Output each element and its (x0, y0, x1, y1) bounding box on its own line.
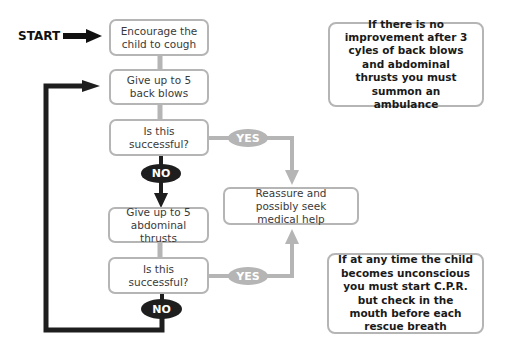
decision-check-1: Is this successful? (109, 119, 209, 156)
loop-arrow-icon (82, 80, 100, 92)
step-reassure: Reassure and possibly seek medical help (223, 187, 359, 225)
step-text: Give up to 5 abdominal thrusts (110, 206, 207, 245)
note-text: If at any time the child becomes unconsc… (329, 253, 482, 333)
yes-arrow-up-icon (285, 229, 299, 244)
step-text: Give up to 5 back blows (111, 74, 207, 100)
step-back-blows: Give up to 5 back blows (109, 69, 209, 105)
step-text: Encourage the child to cough (111, 25, 207, 51)
note-text: If there is no improvement after 3 cyles… (330, 18, 482, 112)
decision-check-2: Is this successful? (108, 257, 209, 294)
step-encourage-cough: Encourage the child to cough (109, 19, 209, 56)
start-arrow-icon (86, 29, 102, 43)
no-badge-1: NO (141, 164, 181, 183)
yes-arrow-down-icon (285, 170, 299, 185)
no-badge-2: NO (141, 299, 182, 319)
step-text: Is this successful? (110, 263, 207, 289)
yes-badge-1: YES (228, 129, 268, 147)
yes-badge-2: YES (228, 267, 268, 285)
note-ambulance: If there is no improvement after 3 cyles… (328, 22, 484, 107)
step-abdominal-thrusts: Give up to 5 abdominal thrusts (108, 207, 209, 243)
start-label: START (18, 29, 60, 43)
step-text: Is this successful? (111, 125, 207, 151)
note-cpr: If at any time the child becomes unconsc… (327, 253, 484, 334)
step-text: Reassure and possibly seek medical help (225, 187, 357, 226)
